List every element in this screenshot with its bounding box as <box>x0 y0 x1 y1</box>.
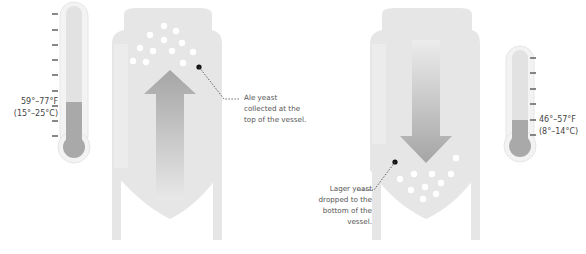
lager-annotation-line: Lager yeast <box>300 183 372 194</box>
lager-thermometer <box>504 46 536 162</box>
ale-fermenter-tank <box>112 8 239 240</box>
ale-annotation: Ale yeast collected at the top of the ve… <box>244 92 324 125</box>
lager-temperature-range: 46°–57°F (8°–14°C) <box>539 114 586 138</box>
ale-annotation-line: top of the vessel. <box>244 114 324 125</box>
lager-annotation: Lager yeast dropped to the bottom of the… <box>300 183 372 227</box>
diagram: 59°–77°F (15°–25°C) Ale yeast collected … <box>0 0 586 254</box>
ale-annotation-line: collected at the <box>244 103 324 114</box>
lager-temperature-f: 46°–57°F <box>539 114 586 126</box>
diagram-graphics <box>0 0 586 254</box>
lager-annotation-line: vessel. <box>300 216 372 227</box>
ale-thermometer <box>52 2 90 163</box>
lager-temperature-c: (8°–14°C) <box>539 126 586 138</box>
lager-fermenter-tank <box>357 8 480 240</box>
ale-temperature-range: 59°–77°F (15°–25°C) <box>10 96 58 120</box>
ale-annotation-line: Ale yeast <box>244 92 324 103</box>
ale-temperature-f: 59°–77°F <box>10 96 58 108</box>
lager-annotation-line: bottom of the <box>300 205 372 216</box>
lager-annotation-line: dropped to the <box>300 194 372 205</box>
ale-temperature-c: (15°–25°C) <box>10 108 58 120</box>
